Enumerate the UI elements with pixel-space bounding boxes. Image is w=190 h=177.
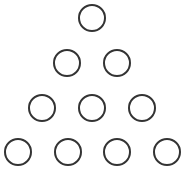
circle-icon xyxy=(128,94,156,122)
circle-icon xyxy=(153,138,181,166)
circle-icon xyxy=(78,94,106,122)
circle-icon xyxy=(103,138,131,166)
circle-triangle-diagram xyxy=(0,0,190,177)
circle-icon xyxy=(4,138,32,166)
circle-icon xyxy=(78,4,106,32)
circle-icon xyxy=(54,138,82,166)
circle-icon xyxy=(53,49,81,77)
circle-icon xyxy=(103,49,131,77)
circle-icon xyxy=(28,94,56,122)
